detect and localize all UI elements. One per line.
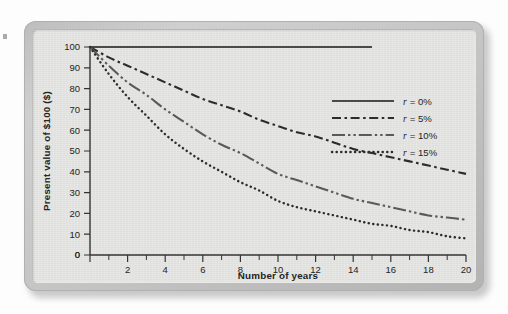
y-tick-label: 100 <box>64 41 80 52</box>
x-tick-label: 18 <box>423 264 434 275</box>
x-tick-label: 2 <box>125 264 130 275</box>
y-tick-label: 80 <box>69 83 80 94</box>
x-tick-label: 20 <box>461 264 472 275</box>
y-tick-label: 40 <box>69 166 80 177</box>
chart-plot-surface: 0102030405060708090100 24681012141618200… <box>32 29 476 283</box>
y-axis-title: Present value of $100 ($) <box>41 91 52 211</box>
x-origin-label: 0 <box>75 249 80 260</box>
legend-label-5pct: r= 5% <box>403 113 432 124</box>
x-tick-label: 14 <box>348 264 359 275</box>
series-line-15pct <box>90 47 466 238</box>
x-tick-label: 4 <box>163 264 168 275</box>
data-series-group <box>90 47 466 238</box>
y-tick-label: 30 <box>69 187 80 198</box>
figure-root: 0102030405060708090100 24681012141618200… <box>0 0 508 314</box>
y-tick-label: 10 <box>69 229 80 240</box>
y-tick-label: 90 <box>69 62 80 73</box>
legend-label-15pct: r= 15% <box>403 147 438 158</box>
y-tick-label: 20 <box>69 208 80 219</box>
chart-legend: r= 0%r= 5%r= 10%r= 15% <box>332 96 438 158</box>
x-axis-title: Number of years <box>238 270 319 281</box>
legend-label-10pct: r= 10% <box>403 130 438 141</box>
y-tick-label: 50 <box>69 145 80 156</box>
page-edge-mark <box>3 34 7 39</box>
x-tick-label: 16 <box>386 264 397 275</box>
chart-panel-frame: 0102030405060708090100 24681012141618200… <box>24 21 484 291</box>
y-tick-label: 60 <box>69 125 80 136</box>
line-chart: 0102030405060708090100 24681012141618200… <box>32 29 476 283</box>
y-axis-ticks: 0102030405060708090100 <box>64 41 90 260</box>
x-tick-label: 6 <box>200 264 205 275</box>
y-tick-label: 70 <box>69 104 80 115</box>
legend-label-0pct: r= 0% <box>403 96 432 107</box>
